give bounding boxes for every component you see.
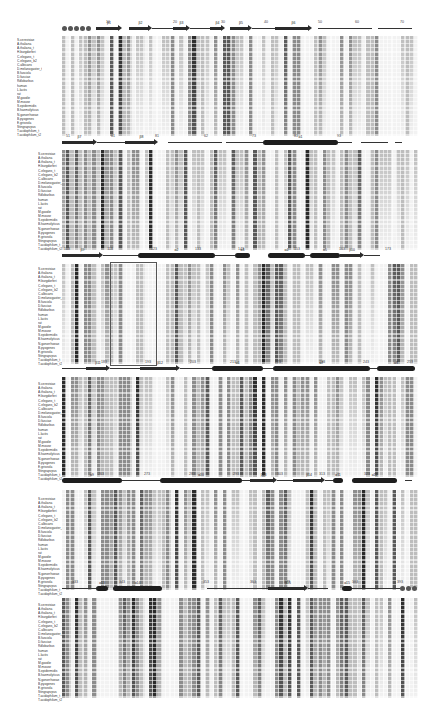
disordered-region-dots bbox=[62, 26, 91, 31]
coil-line bbox=[318, 28, 372, 29]
ss-element-label: α9 bbox=[90, 473, 94, 477]
coil-line bbox=[395, 142, 402, 143]
ss-element-label: α3 bbox=[241, 248, 245, 252]
position-marker: 173 bbox=[385, 247, 391, 251]
coil-line bbox=[180, 368, 212, 369]
position-marker: 253 bbox=[407, 360, 413, 364]
coil-line bbox=[338, 142, 352, 143]
beta-strand-arrow bbox=[340, 254, 360, 258]
secondary-structure-track: 333343353363373383393α13α14β15α15 bbox=[0, 580, 437, 594]
beta-strand-arrow bbox=[210, 27, 221, 31]
ss-element-label: α13 bbox=[99, 581, 105, 585]
position-marker: 323 bbox=[364, 472, 370, 476]
coil-line bbox=[308, 588, 328, 589]
position-marker: 203 bbox=[190, 360, 196, 364]
highlight-box bbox=[110, 262, 157, 366]
alignment-grid bbox=[62, 36, 420, 136]
residue-cells bbox=[62, 377, 420, 477]
ss-element-label: α11 bbox=[335, 473, 340, 477]
ss-element-label: α6 bbox=[236, 361, 240, 365]
beta-strand-arrow bbox=[129, 27, 148, 31]
ss-element-label: β12 bbox=[157, 361, 163, 365]
position-marker: 163 bbox=[339, 247, 345, 251]
alpha-helix-bar bbox=[268, 253, 305, 258]
sequence-label: B.haemolyticus bbox=[38, 337, 63, 341]
coil-line bbox=[405, 480, 412, 481]
ss-element-label: α1 bbox=[299, 135, 303, 139]
position-marker: 113 bbox=[107, 247, 113, 251]
alpha-helix-bar bbox=[310, 253, 340, 258]
position-marker: 293 bbox=[233, 472, 239, 476]
ss-element-label: β11 bbox=[95, 361, 100, 365]
position-marker: 383 bbox=[352, 580, 358, 584]
disordered-region-dots bbox=[400, 586, 417, 591]
sequence-labels: S.cerevisiaeA.thalianaA.thaliana_tH.burg… bbox=[38, 382, 63, 481]
residue-cells bbox=[62, 598, 420, 698]
position-marker: 123 bbox=[151, 247, 157, 251]
alpha-helix-bar bbox=[138, 253, 215, 258]
position-marker: 61 bbox=[111, 134, 115, 138]
position-marker: 81 bbox=[294, 134, 298, 138]
position-marker: 50 bbox=[318, 20, 322, 24]
position-marker: 103 bbox=[64, 247, 70, 251]
position-marker: 60 bbox=[355, 20, 359, 24]
ss-element-label: α15 bbox=[344, 581, 350, 585]
coil-line bbox=[152, 28, 173, 29]
ss-element-label: α5 bbox=[323, 248, 327, 252]
ss-element-label: α2 bbox=[175, 248, 179, 252]
alpha-helix-bar bbox=[263, 140, 338, 145]
position-marker: 263 bbox=[98, 472, 104, 476]
coil-line bbox=[110, 368, 140, 369]
ss-element-label: β2 bbox=[139, 21, 143, 25]
beta-strand-arrow bbox=[62, 254, 99, 258]
alignment-grid bbox=[62, 490, 420, 590]
alpha-helix-bar bbox=[342, 586, 352, 591]
coil-line bbox=[364, 255, 380, 256]
position-marker: 283 bbox=[189, 472, 195, 476]
position-marker: 333 bbox=[72, 580, 78, 584]
alpha-helix-bar bbox=[352, 478, 397, 483]
position-marker: 81 bbox=[155, 134, 159, 138]
coil-line bbox=[103, 255, 138, 256]
beta-strand-arrow bbox=[140, 367, 176, 371]
alignment-grid bbox=[62, 598, 420, 698]
position-marker: 20 bbox=[173, 20, 177, 24]
beta-strand-arrow bbox=[275, 27, 308, 31]
coil-line bbox=[62, 588, 96, 589]
position-marker: 153 bbox=[294, 247, 300, 251]
ss-element-label: β10 bbox=[349, 248, 355, 252]
position-marker: 93 bbox=[337, 134, 341, 138]
coil-line bbox=[361, 142, 388, 143]
position-marker: 183 bbox=[101, 360, 107, 364]
ss-element-label: β1 bbox=[107, 21, 111, 25]
coil-line bbox=[370, 368, 377, 369]
position-marker: 40 bbox=[264, 20, 268, 24]
sequence-labels: S.cerevisiaeA.thalianaA.thaliana_tH.burg… bbox=[38, 267, 63, 366]
position-marker: 313 bbox=[319, 472, 325, 476]
beta-strand-arrow bbox=[250, 479, 273, 483]
position-marker: 393 bbox=[397, 580, 403, 584]
beta-strand-arrow bbox=[125, 141, 154, 145]
beta-strand-arrow bbox=[293, 479, 321, 483]
sequence-label: B.haemolyticus bbox=[17, 108, 42, 112]
beta-strand-arrow bbox=[86, 367, 106, 371]
ss-element-label: β13 bbox=[261, 473, 267, 477]
coil-line bbox=[190, 28, 210, 29]
secondary-structure-track: 263273283293303313323α9α10β13β14α11α12 bbox=[0, 472, 437, 486]
residue-cells bbox=[62, 490, 420, 590]
position-marker: 70 bbox=[400, 20, 404, 24]
alignment-grid bbox=[62, 150, 420, 250]
ss-element-label: α4 bbox=[285, 248, 289, 252]
position-marker: 133 bbox=[195, 247, 201, 251]
beta-strand-arrow bbox=[268, 587, 304, 591]
position-marker: 223 bbox=[275, 360, 281, 364]
coil-line bbox=[263, 368, 273, 369]
coil-line bbox=[207, 588, 268, 589]
position-marker: 303 bbox=[277, 472, 283, 476]
alignment-grid bbox=[62, 377, 420, 477]
coil-line bbox=[242, 480, 250, 481]
beta-strand-arrow bbox=[62, 141, 93, 145]
coil-line bbox=[122, 480, 160, 481]
alpha-helix-bar bbox=[235, 253, 250, 258]
position-marker: 363 bbox=[250, 580, 256, 584]
